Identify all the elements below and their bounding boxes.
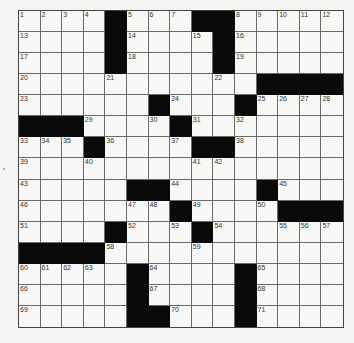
grid-cell[interactable]: 20 [19, 74, 41, 95]
grid-cell[interactable] [84, 180, 106, 201]
grid-cell[interactable] [300, 53, 322, 74]
grid-cell[interactable] [300, 180, 322, 201]
grid-cell[interactable]: 30 [149, 116, 171, 137]
grid-cell[interactable] [257, 137, 279, 158]
grid-cell[interactable] [149, 32, 171, 53]
grid-cell[interactable]: 36 [105, 137, 127, 158]
grid-cell[interactable]: 31 [192, 116, 214, 137]
grid-cell[interactable]: 6 [149, 11, 171, 32]
grid-cell[interactable] [213, 264, 235, 285]
grid-cell[interactable] [41, 53, 63, 74]
grid-cell[interactable] [278, 243, 300, 264]
grid-cell[interactable]: 32 [235, 116, 257, 137]
grid-cell[interactable] [105, 264, 127, 285]
grid-cell[interactable]: 52 [127, 222, 149, 243]
grid-cell[interactable] [257, 116, 279, 137]
grid-cell[interactable] [321, 243, 343, 264]
grid-cell[interactable] [321, 264, 343, 285]
grid-cell[interactable]: 18 [127, 53, 149, 74]
grid-cell[interactable] [41, 158, 63, 179]
grid-cell[interactable]: 38 [235, 137, 257, 158]
grid-cell[interactable]: 13 [19, 32, 41, 53]
grid-cell[interactable] [41, 201, 63, 222]
grid-cell[interactable]: 67 [149, 285, 171, 306]
grid-cell[interactable] [300, 285, 322, 306]
grid-cell[interactable] [300, 116, 322, 137]
grid-cell[interactable]: 69 [19, 306, 41, 327]
grid-cell[interactable] [127, 137, 149, 158]
grid-cell[interactable] [62, 32, 84, 53]
grid-cell[interactable] [41, 180, 63, 201]
grid-cell[interactable]: 43 [19, 180, 41, 201]
grid-cell[interactable]: 21 [105, 74, 127, 95]
grid-cell[interactable] [170, 53, 192, 74]
grid-cell[interactable] [257, 222, 279, 243]
grid-cell[interactable]: 48 [149, 201, 171, 222]
grid-cell[interactable] [300, 32, 322, 53]
grid-cell[interactable] [84, 53, 106, 74]
grid-cell[interactable] [41, 95, 63, 116]
grid-cell[interactable] [192, 285, 214, 306]
grid-cell[interactable]: 62 [62, 264, 84, 285]
grid-cell[interactable]: 68 [257, 285, 279, 306]
grid-cell[interactable] [213, 95, 235, 116]
grid-cell[interactable]: 25 [257, 95, 279, 116]
grid-cell[interactable] [105, 116, 127, 137]
grid-cell[interactable] [278, 306, 300, 327]
grid-cell[interactable] [300, 243, 322, 264]
grid-cell[interactable] [62, 222, 84, 243]
grid-cell[interactable]: 28 [321, 95, 343, 116]
grid-cell[interactable]: 56 [300, 222, 322, 243]
grid-cell[interactable] [149, 158, 171, 179]
grid-cell[interactable] [149, 53, 171, 74]
grid-cell[interactable]: 60 [19, 264, 41, 285]
grid-cell[interactable] [213, 285, 235, 306]
grid-cell[interactable]: 70 [170, 306, 192, 327]
grid-cell[interactable] [84, 201, 106, 222]
grid-cell[interactable] [213, 116, 235, 137]
grid-cell[interactable] [300, 306, 322, 327]
grid-cell[interactable] [127, 158, 149, 179]
grid-cell[interactable] [170, 32, 192, 53]
grid-cell[interactable]: 11 [300, 11, 322, 32]
grid-cell[interactable] [105, 95, 127, 116]
grid-cell[interactable]: 33 [19, 137, 41, 158]
grid-cell[interactable] [257, 32, 279, 53]
grid-cell[interactable]: 26 [278, 95, 300, 116]
grid-cell[interactable] [62, 95, 84, 116]
grid-cell[interactable] [41, 285, 63, 306]
grid-cell[interactable] [105, 158, 127, 179]
grid-cell[interactable]: 57 [321, 222, 343, 243]
grid-cell[interactable] [321, 306, 343, 327]
grid-cell[interactable] [84, 285, 106, 306]
grid-cell[interactable]: 15 [192, 32, 214, 53]
grid-cell[interactable] [235, 243, 257, 264]
grid-cell[interactable]: 61 [41, 264, 63, 285]
grid-cell[interactable]: 24 [170, 95, 192, 116]
grid-cell[interactable] [321, 285, 343, 306]
grid-cell[interactable] [321, 158, 343, 179]
grid-cell[interactable] [84, 306, 106, 327]
grid-cell[interactable] [321, 180, 343, 201]
grid-cell[interactable]: 47 [127, 201, 149, 222]
grid-cell[interactable] [105, 180, 127, 201]
grid-cell[interactable] [192, 95, 214, 116]
grid-cell[interactable] [127, 74, 149, 95]
grid-cell[interactable] [213, 306, 235, 327]
grid-cell[interactable] [321, 32, 343, 53]
grid-cell[interactable]: 41 [192, 158, 214, 179]
grid-cell[interactable] [62, 53, 84, 74]
grid-cell[interactable] [278, 285, 300, 306]
grid-cell[interactable]: 58 [105, 243, 127, 264]
grid-cell[interactable] [235, 180, 257, 201]
grid-cell[interactable] [84, 95, 106, 116]
grid-cell[interactable] [192, 74, 214, 95]
grid-cell[interactable] [41, 222, 63, 243]
grid-cell[interactable]: 23 [19, 95, 41, 116]
grid-cell[interactable] [62, 201, 84, 222]
grid-cell[interactable] [213, 201, 235, 222]
grid-cell[interactable] [192, 306, 214, 327]
grid-cell[interactable]: 37 [170, 137, 192, 158]
grid-cell[interactable]: 71 [257, 306, 279, 327]
grid-cell[interactable]: 46 [19, 201, 41, 222]
